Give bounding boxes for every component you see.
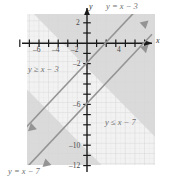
x-tick-label-neg4: –4 [52,45,60,54]
y-tick-label-neg2: –2 [73,59,81,68]
x-tick-label-neg2: –2 [71,45,79,54]
upper-region-inequality-label: y ≥ x − 3 [28,64,59,74]
y-tick-label-2: 2 [76,18,80,27]
x-axis-label: x [156,36,160,45]
upper-line-equation-label: y = x − 3 [106,1,138,11]
lower-line-equation-label: y = x − 7 [8,166,40,176]
y-tick-label-neg12: –12 [69,161,80,170]
lower-region-inequality-label: y ≤ x − 7 [105,117,136,127]
x-tick-label-neg6: –6 [33,45,41,54]
y-tick-label-neg10: –10 [69,141,80,150]
x-tick-label-4: 4 [117,45,121,54]
y-tick-label-neg6: –6 [73,100,81,109]
coordinate-plane-svg [0,0,171,182]
graph-figure: x y –6 –4 –2 4 2 –2 –6 –10 –12 y = x − 3… [0,0,171,182]
y-axis-label: y [89,2,93,11]
